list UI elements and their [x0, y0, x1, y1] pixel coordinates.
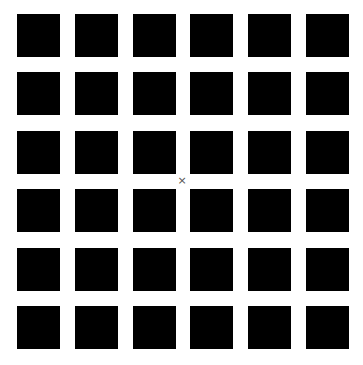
grid-square [75, 306, 118, 349]
grid-square [248, 14, 291, 57]
grid-square [17, 248, 60, 291]
grid-square [133, 189, 176, 232]
grid-square [17, 72, 60, 115]
grid-square [75, 72, 118, 115]
grid-square [190, 131, 233, 174]
grid-square [306, 14, 349, 57]
grid-square [75, 14, 118, 57]
grid-square [17, 14, 60, 57]
grid-square [306, 248, 349, 291]
grid-square [17, 131, 60, 174]
grid-square [306, 189, 349, 232]
grid-square [133, 306, 176, 349]
grid-square [75, 131, 118, 174]
grid-square [248, 248, 291, 291]
grid-square [17, 189, 60, 232]
fixation-cross-icon: × [176, 175, 188, 187]
grid-square [133, 72, 176, 115]
grid-square [306, 72, 349, 115]
grid-square [75, 248, 118, 291]
grid-square [190, 14, 233, 57]
grid-square [190, 248, 233, 291]
grid-square [248, 72, 291, 115]
grid-square [133, 14, 176, 57]
grid-square [248, 189, 291, 232]
grid-square [75, 189, 118, 232]
grid-square [248, 306, 291, 349]
grid-square [133, 131, 176, 174]
grid-square [190, 306, 233, 349]
grid-square [306, 131, 349, 174]
grid-square [190, 189, 233, 232]
grid-square [190, 72, 233, 115]
grid-square [17, 306, 60, 349]
grid-square [133, 248, 176, 291]
grid-square [306, 306, 349, 349]
grid-square [248, 131, 291, 174]
